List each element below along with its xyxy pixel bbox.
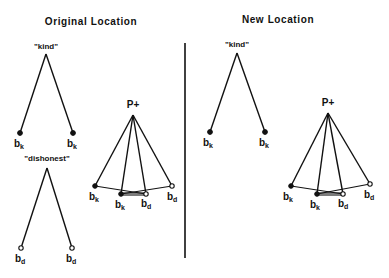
left-panel-title: Original Location [45,16,137,27]
filled-node-icon [71,131,76,136]
root-label: P+ [322,97,335,108]
filled-node-icon [208,130,213,135]
root-label: "kind" [225,40,249,49]
leaf-label: bk [283,191,293,203]
leaf-label: bk [115,199,125,211]
leaf-label: bd [364,189,374,201]
open-node-icon [19,246,23,250]
open-node-icon [170,184,174,188]
filled-node-icon [18,131,23,136]
leaf-label: bk [14,138,24,150]
filled-node-icon [289,184,294,189]
open-node-icon [70,246,74,250]
left-pplus-tree: P+ bk bk bd bd [89,99,177,211]
filled-node-icon [93,184,98,189]
open-node-icon [368,182,372,186]
open-node-icon [341,192,345,196]
leaf-label: bd [167,191,177,203]
leaf-label: bd [141,198,151,210]
right-pplus-tree: P+ bk bk bd bd [283,97,374,211]
open-node-icon [144,192,148,196]
leaf-label: bk [310,199,320,211]
leaf-label: bk [203,137,213,149]
edge [47,168,72,248]
root-label: "kind" [34,42,58,51]
filled-node-icon [263,130,268,135]
leaf-label: bk [67,138,77,150]
left-dishonest-tree: "dishonest" bd bd [15,154,76,265]
edge [21,168,47,248]
leaf-label: bd [15,253,25,265]
leaf-label: bd [66,253,76,265]
leaf-label: bk [89,191,99,203]
leaf-label: bk [259,137,269,149]
diagram-canvas: Original Location New Location "kind" bk… [0,0,389,278]
root-label: P+ [127,99,140,110]
left-kind-tree: "kind" bk bk [14,42,77,150]
filled-node-icon [119,192,124,197]
edge [210,53,237,132]
leaf-label: bd [338,198,348,210]
right-panel-title: New Location [242,14,314,25]
edge [237,53,265,132]
edge [46,54,73,133]
edge [20,54,46,133]
filled-node-icon [315,192,320,197]
root-label: "dishonest" [24,154,70,163]
right-kind-tree: "kind" bk bk [203,40,269,149]
